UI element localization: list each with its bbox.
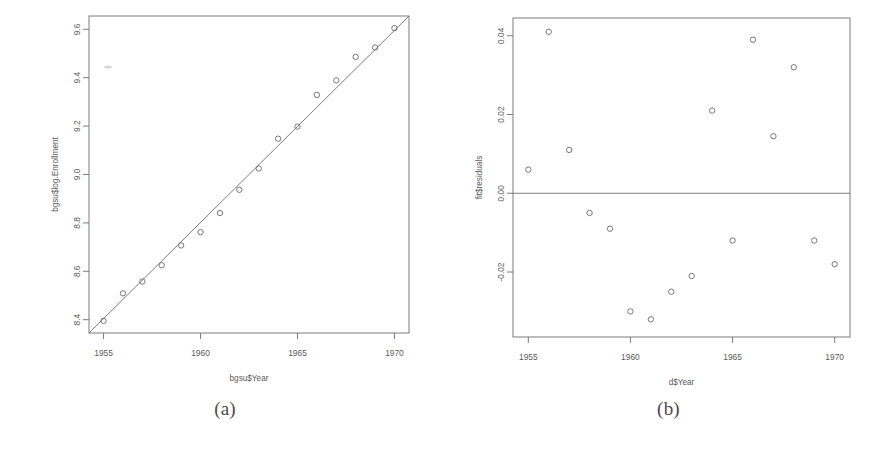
data-point	[832, 261, 837, 266]
data-point	[526, 167, 531, 172]
data-point	[256, 166, 261, 171]
data-point	[771, 133, 776, 138]
y-axis-tick-label: 9.6	[72, 23, 82, 35]
data-point	[689, 273, 694, 278]
data-point	[275, 136, 280, 141]
panel-a-caption: (a)	[0, 398, 464, 420]
x-axis-tick-label: 1970	[385, 348, 404, 358]
data-point	[628, 309, 633, 314]
data-point	[750, 37, 755, 42]
data-point	[730, 238, 735, 243]
data-point	[198, 229, 203, 234]
data-point	[791, 65, 796, 70]
scatter-plot-a: 8.48.68.89.09.29.49.61955196019651970bgs…	[0, 0, 450, 400]
regression-fit-line	[89, 16, 409, 333]
data-point	[120, 291, 125, 296]
x-axis-tick-label: 1970	[825, 352, 844, 362]
y-axis-tick-label: 8.6	[72, 265, 82, 277]
data-point	[812, 238, 817, 243]
y-axis-title: fit$residuals	[475, 156, 484, 200]
figure-panel-a: 8.48.68.89.09.29.49.61955196019651970bgs…	[0, 0, 450, 454]
figure-panel-b: -0.020.000.020.041955196019651970d$Yearf…	[450, 0, 887, 454]
x-axis-tick-label: 1955	[519, 352, 538, 362]
y-axis-title: bgsu$log.Enrollment	[51, 136, 60, 211]
x-axis-tick-label: 1965	[288, 348, 307, 358]
y-axis-tick-label: 0.04	[496, 27, 506, 44]
y-axis-tick-label: 8.8	[72, 217, 82, 229]
y-axis-tick-label: 9.4	[72, 72, 82, 84]
scatter-plot-b: -0.020.000.020.041955196019651970d$Yearf…	[450, 0, 887, 400]
y-axis-tick-label: 0.02	[496, 106, 506, 123]
data-point	[587, 210, 592, 215]
data-point-group	[526, 29, 838, 322]
y-axis-tick-label: 9.2	[72, 120, 82, 132]
x-axis-title: d$Year	[669, 378, 695, 387]
y-axis-tick-label: 0.00	[496, 185, 506, 202]
data-point	[159, 263, 164, 268]
figure-row: 8.48.68.89.09.29.49.61955196019651970bgs…	[0, 0, 887, 454]
data-point	[709, 108, 714, 113]
x-axis-tick-label: 1965	[723, 352, 742, 362]
data-point	[314, 92, 319, 97]
data-point	[334, 78, 339, 83]
x-axis-tick-label: 1955	[94, 348, 113, 358]
data-point	[566, 147, 571, 152]
data-point	[178, 243, 183, 248]
data-point	[669, 289, 674, 294]
plot-frame	[513, 18, 850, 337]
x-axis-title: bgsu$Year	[230, 374, 269, 383]
data-point	[546, 29, 551, 34]
y-axis-tick-label: -0.02	[496, 262, 506, 281]
x-axis-tick-label: 1960	[621, 352, 640, 362]
x-axis-tick-label: 1960	[191, 348, 210, 358]
y-axis-tick-label: 8.4	[72, 314, 82, 326]
panel-b-caption: (b)	[450, 398, 887, 420]
data-point	[217, 210, 222, 215]
data-point	[607, 226, 612, 231]
data-point	[353, 54, 358, 59]
data-point	[237, 187, 242, 192]
data-point	[648, 317, 653, 322]
scan-artifact-speck	[104, 65, 112, 68]
y-axis-tick-label: 9.0	[72, 168, 82, 180]
